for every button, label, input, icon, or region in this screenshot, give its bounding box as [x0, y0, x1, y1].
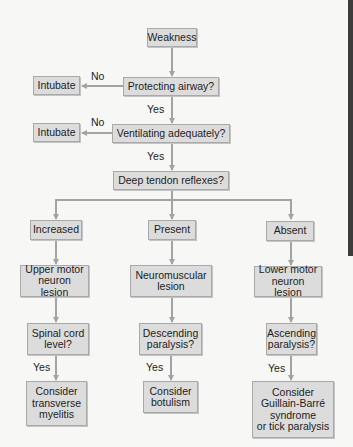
- node-botulism: Consider botulism: [143, 381, 198, 413]
- arrow-dtr-increased: [56, 200, 172, 219]
- node-guillain-barre: Consider Guillain-Barré syndrome or tick…: [252, 381, 334, 438]
- node-transverse-myelitis: Consider transverse myelitis: [26, 381, 87, 426]
- node-intubate-1: Intubate: [33, 76, 80, 95]
- node-protecting-airway: Protecting airway?: [123, 77, 219, 96]
- edge-label-no-vent: No: [91, 117, 104, 128]
- edge-label-yes-airway: Yes: [147, 104, 164, 115]
- arrow-dtr-absent: [172, 200, 291, 219]
- edge-label-no-airway: No: [91, 71, 104, 82]
- node-deep-tendon-reflexes: Deep tendon reflexes?: [113, 171, 229, 190]
- node-lower-motor-neuron: Lower motor neuron lesion: [254, 266, 322, 297]
- node-increased: Increased: [30, 220, 82, 240]
- node-descending-paralysis: Descending paralysis?: [139, 323, 202, 355]
- node-neuromuscular: Neuromuscular lesion: [130, 265, 212, 297]
- node-upper-motor-neuron: Upper motor neuron lesion: [20, 265, 89, 297]
- edge-label-yes-right: Yes: [268, 363, 285, 374]
- node-spinal-cord-level: Spinal cord level?: [27, 323, 89, 355]
- node-absent: Absent: [266, 221, 314, 241]
- edge-label-yes-mid: Yes: [146, 362, 163, 373]
- node-weakness: Weakness: [147, 28, 197, 47]
- edge-label-yes-vent: Yes: [147, 151, 164, 162]
- node-ascending-paralysis: Ascending paralysis?: [266, 323, 317, 355]
- node-ventilating: Ventilating adequately?: [112, 124, 230, 143]
- node-intubate-2: Intubate: [33, 123, 80, 142]
- edge-label-yes-left: Yes: [33, 362, 50, 373]
- node-present: Present: [148, 220, 196, 240]
